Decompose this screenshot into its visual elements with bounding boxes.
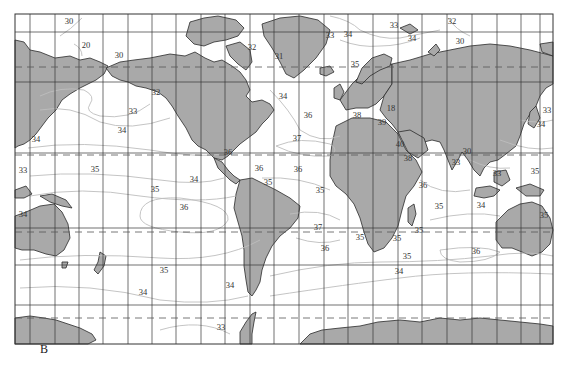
salinity-label: 33 — [19, 165, 28, 175]
salinity-label: 33 — [129, 106, 138, 116]
salinity-label: 30 — [115, 50, 124, 60]
salinity-label: 35 — [356, 232, 365, 242]
salinity-label: 30 — [456, 36, 465, 46]
salinity-label: 32 — [152, 87, 161, 97]
salinity-label: 35 — [415, 225, 424, 235]
salinity-label: 33 — [543, 105, 552, 115]
salinity-label: 32 — [448, 16, 457, 26]
panel-label: B — [40, 342, 48, 357]
salinity-label: 34 — [477, 200, 486, 210]
salinity-label: 36 — [304, 110, 313, 120]
salinity-label: 33 — [217, 322, 226, 332]
salinity-label: 35 — [403, 251, 412, 261]
salinity-label: 37 — [293, 133, 302, 143]
salinity-label: 36 — [224, 147, 233, 157]
salinity-label: 36 — [180, 202, 189, 212]
salinity-label: 34 — [190, 174, 199, 184]
salinity-label: 35 — [435, 201, 444, 211]
salinity-label: 33 — [326, 30, 335, 40]
salinity-label: 34 — [226, 280, 235, 290]
salinity-label: 40 — [396, 139, 405, 149]
salinity-label: 30 — [65, 16, 74, 26]
salinity-label: 31 — [275, 51, 284, 61]
salinity-label: 33 — [493, 168, 502, 178]
salinity-label: 35 — [160, 265, 169, 275]
salinity-label: 36 — [419, 180, 428, 190]
salinity-label: 36 — [294, 164, 303, 174]
salinity-label: 35 — [151, 184, 160, 194]
salinity-label: 30 — [463, 146, 472, 156]
salinity-label: 37 — [314, 222, 323, 232]
salinity-label: 34 — [32, 134, 41, 144]
salinity-label: 32 — [248, 42, 257, 52]
salinity-label: 34 — [408, 33, 417, 43]
salinity-label: 36 — [472, 246, 481, 256]
salinity-label: 38 — [353, 110, 362, 120]
salinity-label: 35 — [393, 233, 402, 243]
salinity-label: 35 — [264, 177, 273, 187]
salinity-label: 35 — [91, 164, 100, 174]
salinity-label: 35 — [540, 210, 549, 220]
salinity-label: 34 — [139, 287, 148, 297]
salinity-label: 35 — [531, 166, 540, 176]
salinity-label: 34 — [19, 209, 28, 219]
salinity-label: 18 — [387, 103, 396, 113]
salinity-label: 35 — [316, 185, 325, 195]
salinity-label: 34 — [344, 29, 353, 39]
salinity-label: 34 — [279, 91, 288, 101]
salinity-label: 38 — [404, 153, 413, 163]
salinity-label: 20 — [82, 40, 91, 50]
salinity-label: 35 — [351, 59, 360, 69]
salinity-label: 33 — [390, 20, 399, 30]
salinity-label: 36 — [255, 163, 264, 173]
salinity-label: 36 — [321, 243, 330, 253]
salinity-label: 34 — [537, 119, 546, 129]
salinity-label: 34 — [395, 266, 404, 276]
salinity-label: 33 — [452, 157, 461, 167]
salinity-world-map: 3020303233343433353536343432313334353332… — [0, 0, 562, 366]
salinity-label: 34 — [118, 125, 127, 135]
salinity-label: 39 — [378, 117, 387, 127]
